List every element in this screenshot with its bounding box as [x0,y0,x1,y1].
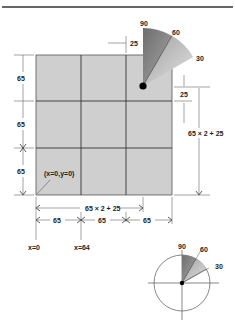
circle-angle-30: 30 [215,263,223,270]
origin-label: (x=0,y=0) [44,170,74,178]
top-angle-90: 90 [140,20,148,27]
diagram-canvas: (x=0,y=0) 90 60 30 25 65 65 65 [0,0,235,333]
bottom-dim-2: 65 [98,217,106,224]
top-angle-30: 30 [196,55,204,62]
circle-angle-90: 90 [178,243,186,250]
right-offset-label: 25 [180,91,188,98]
left-dim-3: 65 [17,168,25,175]
top-offset-dim [108,36,126,53]
pivot-dot [139,82,146,89]
right-total-label: 65 × 2 + 25 [188,130,224,137]
bottom-dim-1: 65 [53,217,61,224]
bottom-dim-3: 65 [143,217,151,224]
x-marker-0: x=0 [28,244,40,251]
top-offset-label: 25 [130,40,138,47]
reference-dot [180,281,184,285]
left-dim-1: 65 [17,75,25,82]
x-marker-64: x=64 [74,244,90,251]
bottom-total-label: 65 × 2 + 25 [85,205,121,212]
left-dim-2: 65 [17,121,25,128]
circle-angle-60: 60 [200,246,208,253]
angle-reference-circle [148,250,219,320]
top-angle-60: 60 [172,29,180,36]
